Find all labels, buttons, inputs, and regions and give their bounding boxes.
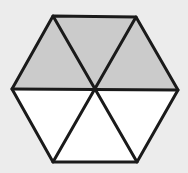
hexagon-diagram <box>0 0 188 173</box>
